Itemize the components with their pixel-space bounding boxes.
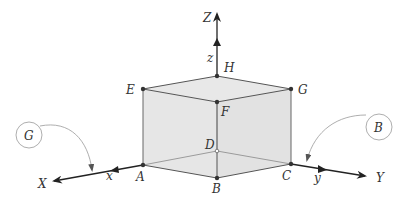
face-left [143, 89, 217, 178]
cube-diagram: Z z X x Y y H E G F D A B C G B [0, 0, 409, 206]
x-axis [54, 165, 143, 181]
label-axis-y: y [313, 171, 321, 185]
callout-label-b: B [373, 121, 383, 135]
label-vertex-B: B [211, 182, 221, 196]
label-vertex-C: C [282, 169, 291, 183]
label-vertex-D: D [204, 138, 215, 152]
diagram-svg: Z z X x Y y H E G F D A B C G B [0, 0, 409, 206]
label-vertex-H: H [223, 61, 235, 75]
label-axis-X: X [37, 177, 47, 191]
cube [143, 76, 291, 178]
label-axis-Z: Z [202, 11, 212, 25]
label-vertex-E: E [125, 83, 135, 97]
label-vertex-A: A [135, 170, 145, 184]
face-right [217, 89, 291, 178]
label-vertex-F: F [220, 105, 230, 119]
label-vertex-G: G [298, 83, 308, 97]
callout-label-g: G [24, 129, 34, 143]
label-axis-x: x [106, 169, 113, 183]
label-axis-Y: Y [376, 171, 385, 185]
label-axis-z: z [206, 51, 214, 65]
y-axis [291, 164, 365, 176]
